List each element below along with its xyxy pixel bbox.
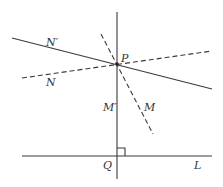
- point-p: [115, 62, 119, 66]
- label-l: L: [193, 159, 201, 172]
- line-n-prime: [12, 38, 212, 89]
- geometry-diagram: N′ N P M′ M Q L: [0, 0, 223, 187]
- label-q: Q: [103, 159, 112, 172]
- right-angle-marker: [117, 148, 125, 156]
- label-n-prime: N′: [45, 36, 59, 49]
- label-m: M: [143, 101, 156, 114]
- label-n: N: [45, 76, 56, 89]
- line-m: [101, 34, 153, 134]
- label-m-prime: M′: [102, 101, 117, 114]
- label-p: P: [120, 52, 129, 65]
